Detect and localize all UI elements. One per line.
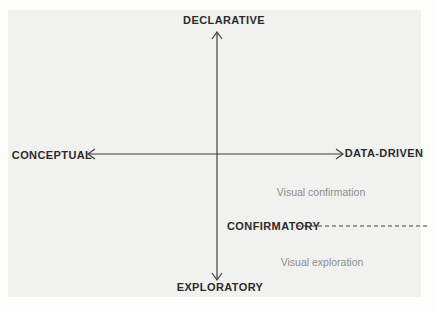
quadrant-label-visual-exploration: Visual exploration	[281, 256, 364, 268]
quadrant-label-visual-confirmation: Visual confirmation	[277, 186, 366, 198]
axis-label-data-driven: DATA-DRIVEN	[345, 147, 424, 159]
threshold-label-confirmatory: CONFIRMATORY	[227, 220, 320, 232]
axis-label-conceptual: CONCEPTUAL	[12, 149, 92, 161]
axis-label-declarative: DECLARATIVE	[183, 14, 265, 26]
axis-label-exploratory: EXPLORATORY	[177, 281, 264, 293]
